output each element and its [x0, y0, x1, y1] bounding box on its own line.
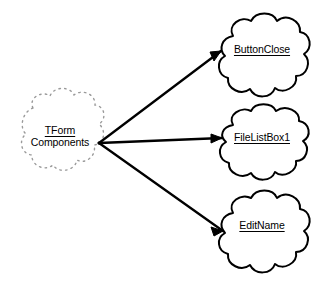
node-label-editname: EditName — [223, 220, 301, 232]
connector-to-buttonclose[interactable] — [99, 51, 221, 143]
source-label-line2: Components — [31, 136, 90, 148]
arrowhead-buttonclose — [210, 51, 221, 61]
node-label-buttonclose: ButtonClose — [223, 44, 301, 56]
diagram-canvas: TForm Components ButtonClose FileListBox… — [0, 0, 321, 283]
target-label-text: FileListBox1 — [234, 131, 290, 143]
source-label-line1: TForm — [45, 124, 75, 136]
connector-to-editname[interactable] — [99, 143, 223, 236]
target-label-text: ButtonClose — [234, 43, 290, 55]
connector-to-filelistbox1[interactable] — [99, 134, 222, 143]
target-label-text: EditName — [239, 219, 284, 231]
node-label-filelistbox1: FileListBox1 — [221, 132, 303, 144]
node-label-tform-components: TForm Components — [20, 125, 100, 148]
